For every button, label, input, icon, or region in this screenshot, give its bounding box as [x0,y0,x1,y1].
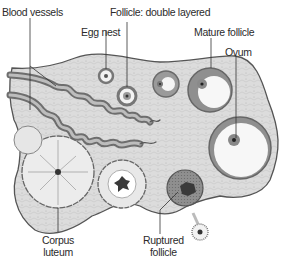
graafian-follicle-illustration [209,117,271,179]
label-ruptured-follicle-line2: follicle [143,246,184,258]
label-ruptured-follicle-line1: Ruptured [143,234,184,246]
label-ovum: Ovum [225,46,252,58]
label-corpus-luteum-line2: luteum [42,246,74,258]
label-follicle-double-layered: Follicle: double layered [110,6,210,18]
mature-follicle-illustration [188,68,232,112]
ovary-diagram [0,0,283,266]
released-ovum-illustration [192,213,208,240]
egg-nest-illustration [99,69,113,83]
label-egg-nest: Egg nest [81,26,120,38]
label-corpus-luteum-line1: Corpus [42,234,74,246]
label-corpus-luteum: Corpus luteum [42,234,74,258]
label-blood-vessels: Blood vessels [2,6,63,18]
atretic-follicle-illustration [98,160,146,208]
growing-follicle-illustration [153,71,179,97]
double-layered-follicle-illustration [118,87,136,105]
ruptured-follicle-illustration [167,170,203,206]
label-ruptured-follicle: Ruptured follicle [143,234,184,258]
label-mature-follicle: Mature follicle [194,26,254,38]
